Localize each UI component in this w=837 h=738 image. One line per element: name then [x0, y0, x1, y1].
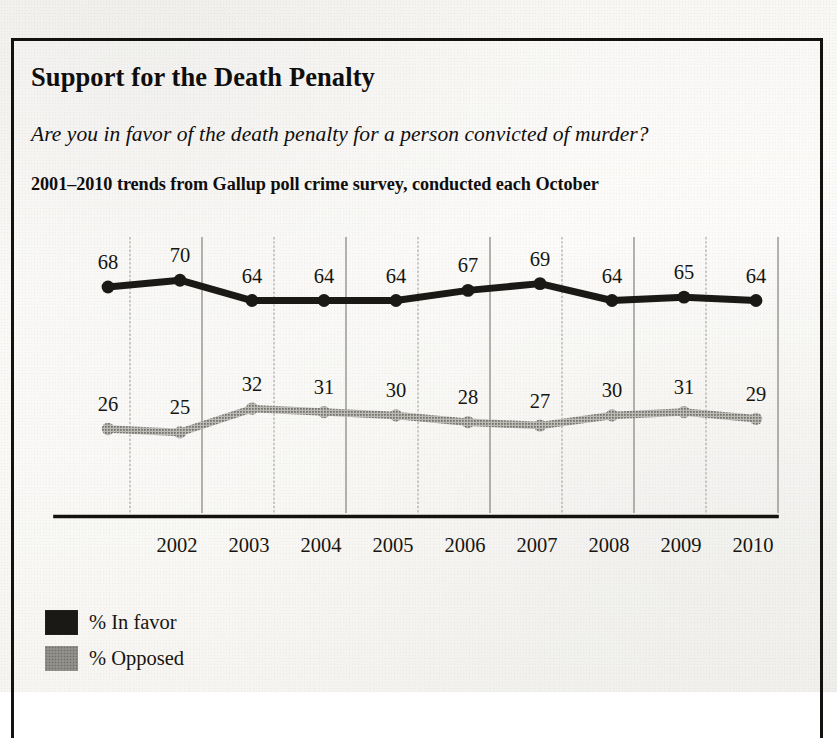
- data-point-marker: [678, 406, 690, 418]
- data-point-label: 64: [242, 265, 263, 287]
- data-point-marker: [750, 413, 762, 425]
- data-point-marker: [606, 294, 619, 307]
- data-point-marker: [462, 284, 475, 297]
- x-tick-label: 2009: [661, 534, 702, 556]
- x-tick-label: 2007: [517, 534, 558, 556]
- data-point-marker: [534, 419, 546, 431]
- x-tick-label: 2008: [589, 534, 630, 556]
- data-point-marker: [102, 423, 114, 435]
- data-point-label: 64: [602, 265, 623, 287]
- data-point-marker: [102, 281, 115, 294]
- x-tick-label: 2004: [301, 534, 342, 556]
- legend-swatch-opposed: [45, 646, 78, 671]
- data-point-label: 29: [746, 383, 767, 405]
- data-point-label: 70: [170, 244, 191, 266]
- data-point-marker: [390, 409, 402, 421]
- data-point-marker: [318, 406, 330, 418]
- data-point-marker: [246, 403, 258, 415]
- data-point-label: 30: [602, 379, 623, 401]
- data-point-marker: [462, 416, 474, 428]
- legend-item-opposed: % Opposed: [45, 643, 184, 673]
- data-point-marker: [174, 426, 186, 438]
- data-point-label: 31: [314, 376, 335, 398]
- chart-plot-area: 200220032004200520062007200820092010 687…: [0, 0, 837, 580]
- data-point-label: 28: [458, 386, 479, 408]
- data-point-marker: [534, 277, 547, 290]
- data-point-label: 65: [674, 261, 695, 283]
- data-point-marker: [678, 291, 691, 304]
- line-chart-svg: 200220032004200520062007200820092010 687…: [0, 0, 837, 580]
- data-point-marker: [750, 294, 763, 307]
- x-axis-tick-labels: 200220032004200520062007200820092010: [157, 534, 774, 556]
- legend-label-in-favor: % In favor: [89, 611, 177, 634]
- data-point-labels: 6870646464676964656426253231302827303129: [98, 244, 767, 418]
- legend-label-opposed: % Opposed: [89, 647, 184, 670]
- legend-item-in-favor: % In favor: [45, 607, 184, 637]
- x-tick-label: 2003: [229, 534, 270, 556]
- x-tick-label: 2006: [445, 534, 486, 556]
- data-point-marker: [246, 294, 259, 307]
- data-point-label: 25: [170, 396, 191, 418]
- data-point-marker: [174, 274, 187, 287]
- data-point-label: 67: [458, 254, 479, 276]
- chart-legend: % In favor % Opposed: [45, 607, 184, 679]
- data-point-label: 30: [386, 379, 407, 401]
- legend-swatch-in-favor: [45, 610, 78, 635]
- data-point-label: 64: [314, 265, 335, 287]
- data-point-label: 31: [674, 376, 695, 398]
- x-tick-label: 2010: [733, 534, 774, 556]
- x-tick-label: 2005: [373, 534, 414, 556]
- data-point-marker: [390, 294, 403, 307]
- data-point-label: 68: [98, 251, 119, 273]
- series-in-favor: [102, 274, 763, 307]
- series-line: [108, 280, 756, 300]
- series-line: [108, 409, 756, 433]
- data-point-marker: [318, 294, 331, 307]
- data-point-label: 64: [746, 265, 767, 287]
- x-tick-label: 2002: [157, 534, 198, 556]
- data-point-label: 69: [530, 248, 551, 270]
- data-point-label: 27: [530, 390, 551, 412]
- series-opposed: [102, 403, 762, 439]
- data-point-label: 32: [242, 373, 263, 395]
- data-point-label: 26: [98, 393, 119, 415]
- data-point-marker: [606, 409, 618, 421]
- data-point-label: 64: [386, 265, 407, 287]
